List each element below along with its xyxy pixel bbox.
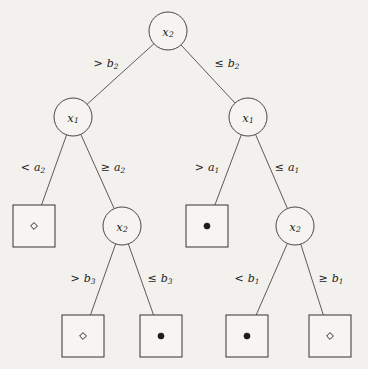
tree-edge [87, 44, 154, 104]
decision-node-label: x1 [242, 110, 253, 124]
decision-node-label: x2 [289, 219, 300, 233]
decision-node-label: x2 [162, 24, 173, 38]
tree-canvas [0, 0, 368, 369]
edge-condition-label: ≤ b3 [148, 272, 173, 285]
edge-condition-label: > b3 [71, 272, 96, 285]
decision-tree-figure: x2x1x1x2x2 > b2≤ b2< a2≥ a2> a1≤ a1> b3≤… [0, 0, 368, 369]
tree-edge [181, 45, 235, 103]
edge-condition-label: ≥ a2 [101, 161, 125, 174]
edge-condition-label: ≤ a1 [275, 161, 299, 174]
decision-node-label: x1 [67, 110, 78, 124]
edge-condition-label: > a1 [195, 161, 219, 174]
tree-edge [256, 243, 287, 315]
filled-dot-icon [204, 223, 210, 229]
edge-condition-label: < a2 [21, 161, 45, 174]
filled-dot-icon [244, 333, 250, 339]
nodes-group [13, 12, 351, 357]
tree-edge [42, 135, 67, 205]
filled-dot-icon [158, 333, 164, 339]
edge-condition-label: > b2 [94, 57, 119, 70]
decision-node-label: x2 [116, 219, 127, 233]
edge-condition-label: ≤ b2 [215, 57, 240, 70]
edge-condition-label: ≥ b1 [319, 272, 344, 285]
edge-condition-label: < b1 [235, 272, 260, 285]
